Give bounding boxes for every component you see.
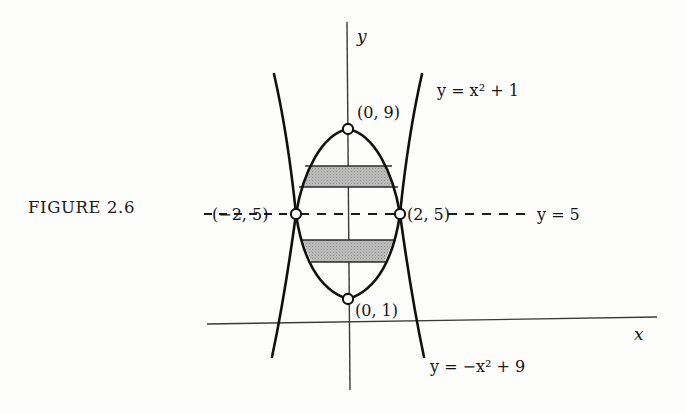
y-axis-label: y [356, 26, 367, 46]
label-horizontal-line: y = 5 [536, 205, 580, 224]
point-marker-left-intersection [291, 209, 301, 219]
label-right-intersection: (2, 5) [407, 205, 450, 224]
x-axis-label: x [634, 324, 644, 344]
label-bottom-vertex: (0, 1) [355, 301, 398, 320]
y-axis [347, 22, 350, 390]
shaded-band-upper [280, 166, 420, 187]
point-marker-right-intersection [395, 209, 405, 219]
figure-page: FIGURE 2.6 y x [0, 0, 686, 413]
x-axis [207, 317, 657, 324]
label-left-intersection: (−2, 5) [212, 205, 268, 224]
label-upward-parabola: y = x² + 1 [436, 81, 519, 100]
coordinate-plot: y x (0, 9) (0, 1) (−2, 5) [0, 0, 686, 413]
point-marker-top-vertex [343, 124, 353, 134]
label-downward-parabola: y = −x² + 9 [429, 357, 525, 376]
label-top-vertex: (0, 9) [357, 103, 400, 122]
point-marker-bottom-vertex [343, 294, 353, 304]
